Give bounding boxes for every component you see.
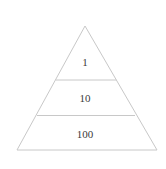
pyramid-level-2-label: 10	[80, 92, 92, 104]
pyramid-level-1-label: 1	[82, 56, 88, 68]
pyramid-diagram: 1 10 100	[0, 0, 166, 169]
pyramid-level-3-label: 100	[77, 128, 94, 140]
